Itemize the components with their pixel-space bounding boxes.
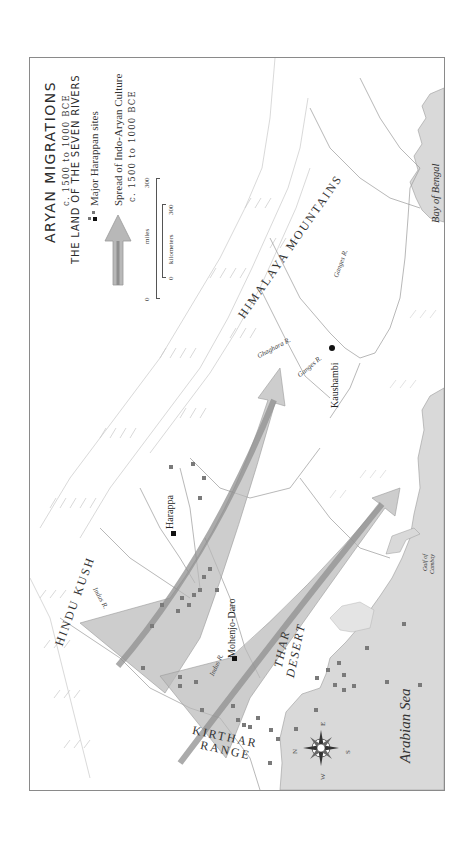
compass-w-label: W [319, 773, 327, 780]
harappan-site-square-icon [88, 211, 100, 223]
harappa-marker [171, 531, 176, 536]
kaushambi-marker [329, 345, 335, 351]
hindu-kush-hatching [30, 578, 90, 778]
bengal-river-line [360, 78, 420, 168]
migration-arrow-icon [103, 213, 133, 288]
legend-subtitle: THE LAND OF THE SEVEN RIVERS [70, 75, 81, 264]
compass-e-label: E [319, 722, 327, 726]
label-gulf-of: Gulf of [422, 554, 429, 571]
compass-s-label: S [344, 750, 352, 754]
legend-harappan-label: Major Harappan sites [88, 111, 100, 206]
label-cambay: Cambay [429, 554, 436, 574]
scale-miles-end: 300 [143, 178, 151, 189]
compass-n-label: N [291, 749, 299, 754]
scale-km-start: 0 [167, 277, 175, 281]
map-frame: ARYAN MIGRATIONS c. 1500 to 1000 BCE THE… [29, 57, 445, 791]
legend-spread-date: c. 1500 to 1000 BCE [127, 90, 137, 202]
label-mohenjo-daro: Mohenjo-Daro [226, 599, 237, 658]
scale-miles-start: 0 [143, 298, 151, 302]
label-harappa: Harappa [164, 495, 175, 529]
scale-miles-label: miles [143, 229, 151, 244]
label-bay-of-bengal: Bay of Bengal [430, 164, 441, 223]
legend-title: ARYAN MIGRATIONS [42, 81, 58, 243]
rann-of-kutch [330, 602, 374, 632]
label-arabian-sea: Arabian Sea [397, 688, 414, 763]
scale-km-end: 300 [167, 205, 175, 216]
scale-km-label: kilometers [167, 234, 175, 264]
legend-spread-label: Spread of Indo-Aryan Culture [112, 74, 124, 206]
label-kaushambi: Kaushambi [329, 362, 340, 408]
